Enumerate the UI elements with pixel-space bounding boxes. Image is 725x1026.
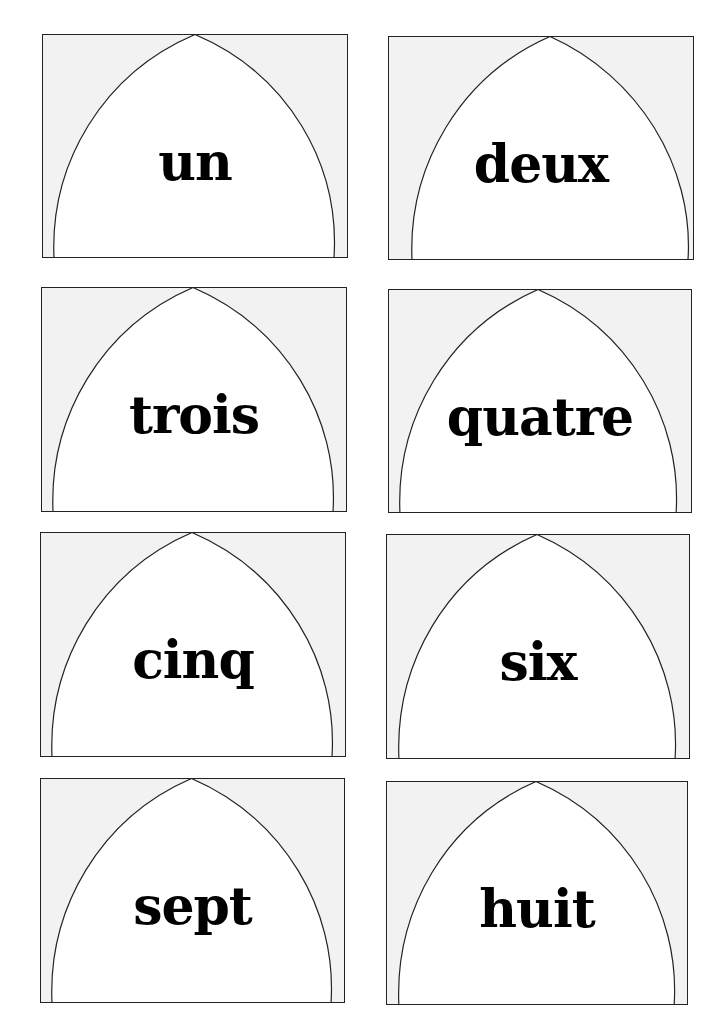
number-word: un (42, 132, 348, 192)
number-word: quatre (388, 387, 692, 447)
number-card-quatre: quatre (388, 289, 692, 513)
number-card-cinq: cinq (40, 532, 346, 757)
number-word: sept (40, 876, 345, 936)
number-word: six (386, 632, 690, 692)
number-word: deux (388, 134, 694, 194)
number-card-huit: huit (386, 781, 688, 1005)
number-word: trois (41, 385, 347, 445)
number-card-trois: trois (41, 287, 347, 512)
number-card-six: six (386, 534, 690, 759)
number-card-deux: deux (388, 36, 694, 260)
number-word: huit (386, 879, 688, 939)
number-word: cinq (40, 630, 346, 690)
number-card-sept: sept (40, 778, 345, 1003)
number-card-un: un (42, 34, 348, 258)
